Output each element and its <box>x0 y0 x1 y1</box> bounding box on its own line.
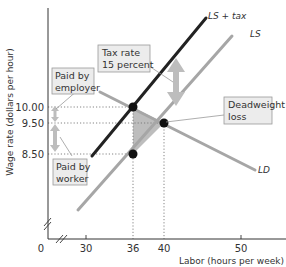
worker-text-2: worker <box>56 173 88 184</box>
chart-canvas: Tax rate 15 percent Deadweight loss Paid… <box>0 0 286 267</box>
paid-by-employer-box: Paid by employer <box>52 68 100 94</box>
paid-by-worker-box: Paid by worker <box>53 159 91 185</box>
x-axis-title: Labor (hours per week) <box>179 256 284 266</box>
point-employer-wage <box>129 103 138 112</box>
point-equilibrium <box>160 119 169 128</box>
employer-text-2: employer <box>55 82 100 93</box>
tax-rate-text-2: 15 percent <box>102 59 154 70</box>
point-worker-wage <box>129 150 138 159</box>
y-tick-9-50: 9.50 <box>22 118 44 129</box>
worker-text-1: Paid by <box>56 161 91 172</box>
ls-label: LS <box>250 29 261 39</box>
tax-double-arrow <box>167 58 185 106</box>
x-ticks <box>86 235 241 239</box>
deadweight-text-1: Deadweight <box>228 99 285 110</box>
ld-label: LD <box>258 165 270 175</box>
x-tick-0: 0 <box>38 243 44 254</box>
x-tick-40: 40 <box>158 243 171 254</box>
y-tick-10-00: 10.00 <box>15 102 44 113</box>
x-tick-50: 50 <box>235 243 248 254</box>
deadweight-box: Deadweight loss <box>224 97 285 124</box>
deadweight-text-2: loss <box>228 111 246 122</box>
ls-tax-label: LS + tax <box>208 11 247 21</box>
y-axis-title: Wage rate (dollars per hour) <box>5 48 15 176</box>
x-tick-36: 36 <box>127 243 140 254</box>
employer-text-1: Paid by <box>55 70 90 81</box>
tax-rate-text-1: Tax rate <box>101 47 140 58</box>
x-tick-30: 30 <box>80 243 93 254</box>
y-tick-8-50: 8.50 <box>22 149 44 160</box>
employer-arrow <box>51 106 59 122</box>
tax-rate-box: Tax rate 15 percent <box>98 45 154 72</box>
worker-arrow <box>50 124 60 152</box>
